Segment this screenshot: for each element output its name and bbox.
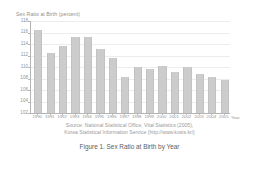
bar — [146, 69, 154, 113]
x-axis-tick-label: 1998 — [131, 115, 143, 119]
y-axis-tick-label: 108 — [20, 76, 28, 81]
y-axis-tick-label: 104 — [20, 99, 28, 104]
bar — [196, 74, 204, 113]
figure-sex-ratio-at-birth: Sex Ratio at Birth (percent) 10210410610… — [0, 0, 259, 169]
y-axis-tick-label: 118 — [21, 19, 28, 24]
y-axis-tick-label: 102 — [20, 111, 28, 116]
bar — [109, 58, 117, 113]
bar-series — [31, 21, 230, 113]
x-axis-tick-label: 1993 — [68, 115, 80, 119]
y-axis-tick-label: 110 — [21, 65, 28, 70]
bar — [34, 30, 42, 113]
x-axis-tick-label: 2003 — [193, 115, 205, 119]
y-axis-tick-mark — [28, 113, 30, 114]
y-axis-tick-label: 106 — [20, 88, 28, 93]
bar — [47, 53, 55, 113]
figure-caption: Figure 1. Sex Ratio at Birth by Year — [0, 143, 259, 150]
y-axis-tick-mark — [28, 102, 30, 103]
bar — [71, 37, 79, 113]
y-axis-tick-label: 114 — [21, 42, 28, 47]
x-axis-unit-label: Year — [231, 115, 240, 120]
bar — [134, 67, 142, 113]
bar — [158, 66, 166, 113]
y-axis-tick-mark — [28, 44, 30, 45]
x-axis-tick-label: 1995 — [93, 115, 105, 119]
bar — [84, 37, 92, 113]
x-axis-tick-label: 1999 — [143, 115, 155, 119]
x-axis-tick-label: 1996 — [106, 115, 118, 119]
x-axis-tick-label: 2005 — [218, 115, 230, 119]
y-axis-tick-mark — [28, 21, 30, 22]
bar — [96, 49, 104, 113]
x-axis-tick-label: 2002 — [180, 115, 192, 119]
bar — [183, 67, 191, 113]
y-axis-tick-mark — [28, 33, 30, 34]
bar — [221, 80, 229, 113]
y-axis-tick-mark — [28, 67, 30, 68]
source-line: Korea Statistical Information Service (h… — [0, 129, 259, 136]
x-axis-tick-label: 2004 — [205, 115, 217, 119]
bar — [121, 77, 129, 113]
bar — [171, 72, 179, 113]
source-line: Source: National Statistical Office, Vit… — [0, 122, 259, 129]
y-axis-tick-labels: 102104106108110112114116118 — [10, 21, 28, 113]
y-axis-tick-mark — [28, 56, 30, 57]
y-axis-tick-mark — [28, 79, 30, 80]
y-axis-tick-label: 116 — [21, 30, 28, 35]
chart-plot-wrapper: 102104106108110112114116118 199019911992… — [0, 0, 259, 125]
bar — [59, 46, 67, 113]
x-axis-tick-label: 2000 — [155, 115, 167, 119]
bar — [208, 77, 216, 113]
y-axis-tick-mark — [28, 90, 30, 91]
x-axis-tick-label: 1997 — [118, 115, 130, 119]
x-axis-tick-label: 1990 — [31, 115, 43, 119]
x-axis-tick-label: 1992 — [56, 115, 68, 119]
source-note: Source: National Statistical Office, Vit… — [0, 122, 259, 136]
y-axis-tick-label: 112 — [21, 53, 28, 58]
x-axis-tick-label: 1994 — [81, 115, 93, 119]
x-axis-tick-label: 2001 — [168, 115, 180, 119]
x-axis-tick-label: 1991 — [43, 115, 55, 119]
